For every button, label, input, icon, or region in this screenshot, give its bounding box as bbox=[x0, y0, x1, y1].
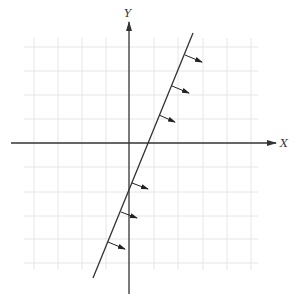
shading-arrow-icon bbox=[185, 55, 202, 62]
y-axis-label: Y bbox=[124, 7, 133, 20]
x-axis-label: X bbox=[279, 137, 289, 150]
shading-arrow-icon bbox=[108, 242, 125, 249]
shading-arrow-icon bbox=[132, 183, 148, 189]
grid bbox=[24, 38, 258, 270]
coordinate-plane: X Y bbox=[0, 0, 296, 302]
shading-arrows bbox=[108, 55, 202, 249]
shading-arrow-icon bbox=[172, 86, 189, 93]
